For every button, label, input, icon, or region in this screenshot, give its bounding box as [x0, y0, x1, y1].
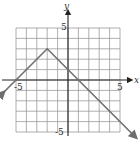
tick-label-y-neg: -5 [55, 127, 64, 137]
tick-label-y-pos: 5 [61, 22, 67, 32]
tick-label-x-pos: 5 [117, 82, 123, 92]
x-axis-label: x [134, 75, 139, 85]
tick-label-x-neg: -5 [14, 82, 23, 92]
y-axis-label: y [63, 1, 70, 11]
coordinate-plane: y x 5 -5 -5 5 [0, 0, 140, 144]
